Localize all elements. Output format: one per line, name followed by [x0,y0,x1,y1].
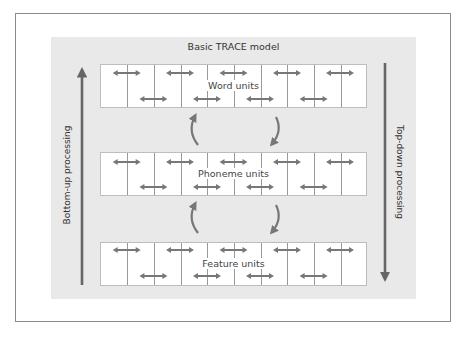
lateral-inhibition-arrows-word [113,70,354,102]
top-down-processing-label: Top-down processing [395,125,405,219]
lateral-inhibition-arrows-feature [113,247,354,279]
bottom-up-processing-label: Bottom-up processing [62,125,72,224]
curved-arrow-down-icon [272,117,279,144]
curved-arrow-up-icon [192,204,198,233]
curved-arrow-down-icon [272,205,279,232]
curved-arrow-up-icon [192,116,198,145]
lateral-inhibition-arrows-phoneme [113,159,354,190]
